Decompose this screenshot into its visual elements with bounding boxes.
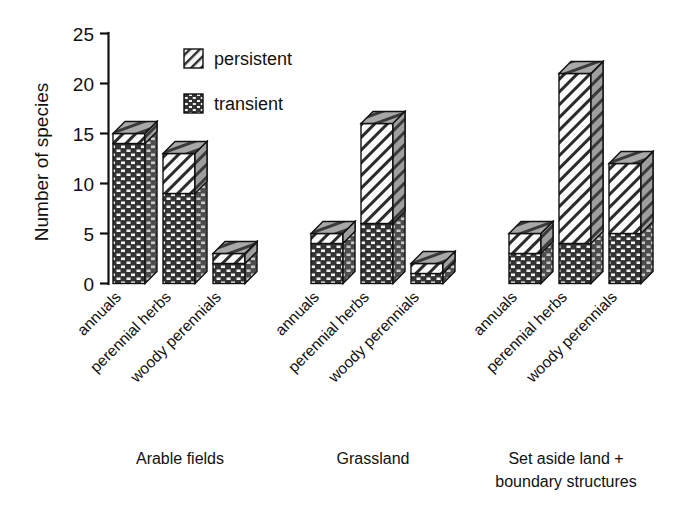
bar-segment-persistent [113, 134, 145, 144]
bar-grassland-perennial-herbs [361, 112, 405, 284]
bar-segment-persistent [163, 154, 195, 194]
bar-segment-persistent [559, 74, 591, 244]
bar-grassland-woody-perennials [411, 252, 455, 284]
legend-swatch-transient-icon [184, 94, 203, 113]
y-tick-label-15: 15 [73, 124, 94, 145]
bar-segment-persistent [509, 234, 541, 254]
bar-segment-transient [113, 144, 145, 284]
bar-segment-transient [213, 264, 245, 284]
bar-segment-persistent [609, 164, 641, 234]
group-label-setaside-line1: Set aside land + [508, 450, 623, 467]
group-label-grassland: Grassland [337, 450, 410, 467]
bar-segment-persistent [311, 234, 343, 244]
legend-item-persistent: persistent [184, 49, 292, 69]
bar-segment-transient [311, 244, 343, 284]
bar-arable-woody-perennials [213, 242, 257, 284]
group-label-setaside-line2: boundary structures [495, 473, 636, 490]
legend-label-transient: transient [214, 94, 283, 114]
bar-side-persistent [641, 152, 653, 234]
bar-segment-transient [411, 274, 443, 284]
bar-segment-persistent [213, 254, 245, 264]
group-label-arable-fields: Arable fields [136, 450, 224, 467]
bar-segment-persistent [361, 124, 393, 224]
legend-label-persistent: persistent [214, 49, 292, 69]
bar-grassland-annuals [311, 222, 355, 284]
bar-segment-transient [361, 224, 393, 284]
bar-segment-persistent [411, 264, 443, 274]
bar-arable-perennial-herbs [163, 142, 207, 284]
y-tick-label-20: 20 [73, 74, 94, 95]
bar-setaside-woody-perennials [609, 152, 653, 284]
bar-side-face [145, 122, 157, 284]
bar-side-persistent [591, 62, 603, 244]
y-tick-label-5: 5 [83, 224, 94, 245]
bar-segment-transient [559, 244, 591, 284]
y-tick-label-0: 0 [83, 274, 94, 295]
bar-segment-transient [163, 194, 195, 284]
bar-segment-transient [509, 254, 541, 284]
y-axis-title: Number of species [31, 83, 52, 241]
legend-swatch-persistent-icon [184, 49, 203, 68]
bar-arable-annuals [113, 122, 157, 284]
bar-segment-transient [609, 234, 641, 284]
y-tick-label-10: 10 [73, 174, 94, 195]
bar-setaside-annuals [509, 222, 553, 284]
y-tick-label-25: 25 [73, 24, 94, 45]
bar-setaside-perennial-herbs [559, 62, 603, 284]
bar-chart: 25 20 15 10 5 0 Number of species persis… [0, 0, 674, 518]
legend-item-transient: transient [184, 94, 283, 114]
chart-container: 25 20 15 10 5 0 Number of species persis… [0, 0, 674, 518]
bar-side-persistent [393, 112, 405, 224]
